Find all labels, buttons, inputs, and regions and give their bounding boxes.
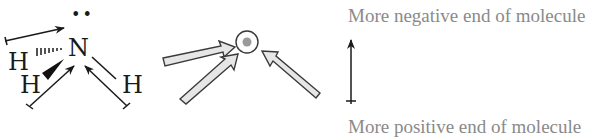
ammonia-structure: •• N H H H (5, 5, 143, 109)
positive-end-label: More positive end of molecule (348, 116, 581, 137)
block-arrow-lower-left (180, 54, 238, 104)
block-arrow-right (262, 51, 320, 98)
wedge-bond (42, 59, 64, 80)
dipole-arrow-back (5, 28, 64, 41)
hashed-bond (37, 48, 61, 56)
dipole-arrow-right (85, 66, 127, 106)
ammonia-dipole-diagram: •• N H H H (0, 0, 605, 140)
nitrogen-atom: N (68, 34, 89, 62)
hydrogen-atom-front: H (20, 71, 41, 99)
vector-sum-diagram (163, 31, 320, 104)
net-dipole-legend: More negative end of molecule More posit… (346, 5, 585, 137)
hydrogen-atom-right: H (122, 71, 143, 99)
negative-end-label: More negative end of molecule (348, 5, 585, 26)
lone-pair: •• (71, 5, 94, 24)
center-dot (243, 38, 252, 47)
